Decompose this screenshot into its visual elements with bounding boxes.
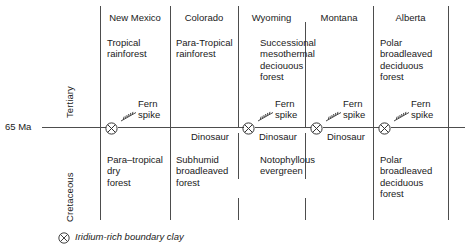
- fern-frond-icon: [325, 108, 342, 119]
- column-rule-wyoming-montana-bottom: [305, 198, 306, 220]
- flora-tertiary-wyoming: Successional mesothermal deciouous fores…: [260, 37, 316, 83]
- flora-line: forest: [176, 177, 228, 188]
- column-header-new-mexico: New Mexico: [100, 12, 170, 23]
- iridium-marker-icon: [105, 121, 118, 134]
- column-rule-right-edge: [448, 6, 449, 220]
- column-rule-colorado-wyoming-mid: [238, 133, 239, 179]
- flora-line: forest: [107, 177, 163, 188]
- fern-spike-line2: spike: [411, 109, 433, 120]
- column-rule-newmexico-colorado: [170, 6, 171, 220]
- flora-line: deciduous: [380, 60, 432, 71]
- legend-label: Iridium-rich boundary clay: [75, 231, 184, 242]
- kt-boundary-line-alberta: [391, 127, 465, 128]
- flora-cretaceous-new-mexico: Para–tropical dry forest: [107, 154, 163, 188]
- flora-line: Para–tropical: [107, 154, 163, 165]
- iridium-marker-icon: [310, 121, 323, 134]
- dinosaur-label-montana: Dinosaur: [327, 131, 365, 142]
- kt-boundary-line-montana-alberta: [323, 127, 379, 128]
- flora-line: broadleaved: [380, 48, 432, 59]
- flora-line: Notophyllous: [260, 154, 315, 165]
- fern-spike-label-wyoming: Fern spike: [275, 98, 297, 121]
- column-rule-montana-alberta: [373, 6, 374, 220]
- flora-line: Polar: [380, 37, 432, 48]
- flora-line: Successional: [260, 37, 316, 48]
- flora-line: broadleaved: [176, 165, 228, 176]
- fern-frond-icon: [393, 108, 410, 119]
- flora-line: Para-Tropical: [176, 37, 233, 48]
- flora-line: rainforest: [107, 48, 147, 59]
- flora-tertiary-alberta: Polar broadleaved deciduous forest: [380, 37, 432, 83]
- flora-cretaceous-wyoming: Notophyllous evergreen: [260, 154, 315, 177]
- flora-line: forest: [380, 188, 432, 199]
- fern-frond-icon: [120, 108, 137, 119]
- column-header-alberta: Alberta: [373, 12, 448, 23]
- flora-line: broadleaved: [380, 165, 432, 176]
- flora-line: evergreen: [260, 165, 315, 176]
- iridium-marker-icon: [242, 121, 255, 134]
- column-header-montana: Montana: [305, 12, 373, 23]
- kt-boundary-line-left: [42, 127, 106, 128]
- iridium-marker-icon: [378, 121, 391, 134]
- column-header-wyoming: Wyoming: [238, 12, 305, 23]
- flora-line: Subhumid: [176, 154, 228, 165]
- flora-tertiary-new-mexico: Tropical rainforest: [107, 37, 147, 60]
- flora-line: mesothermal: [260, 48, 316, 59]
- fern-spike-line2: spike: [275, 109, 297, 120]
- boundary-age-label: 65 Ma: [5, 121, 31, 132]
- column-header-colorado: Colorado: [170, 12, 238, 23]
- flora-tertiary-colorado: Para-Tropical rainforest: [176, 37, 233, 60]
- era-label-tertiary: Tertiary: [64, 86, 75, 118]
- column-rule-colorado-wyoming-bottom: [238, 198, 239, 220]
- fern-spike-label-montana: Fern spike: [343, 98, 365, 121]
- flora-line: forest: [380, 71, 432, 82]
- flora-cretaceous-alberta: Polar broadleaved deciduous forest: [380, 154, 432, 200]
- flora-line: deciduous: [380, 177, 432, 188]
- fern-spike-line1: Fern: [275, 98, 297, 109]
- fern-spike-line2: spike: [343, 109, 365, 120]
- era-label-cretaceous: Cretaceous: [64, 172, 75, 222]
- fern-frond-icon: [257, 108, 274, 119]
- flora-line: rainforest: [176, 48, 233, 59]
- fern-spike-line1: Fern: [343, 98, 365, 109]
- flora-line: dry: [107, 165, 163, 176]
- dinosaur-label-colorado: Dinosaur: [191, 131, 229, 142]
- flora-cretaceous-colorado: Subhumid broadleaved forest: [176, 154, 228, 188]
- iridium-marker-icon: [58, 230, 70, 242]
- legend: Iridium-rich boundary clay: [58, 230, 184, 242]
- flora-line: Polar: [380, 154, 432, 165]
- fern-spike-label-alberta: Fern spike: [411, 98, 433, 121]
- flora-line: deciouous: [260, 60, 316, 71]
- column-rule-colorado-wyoming-top: [238, 6, 239, 128]
- stratigraphic-diagram: 65 Ma Tertiary Cretaceous New Mexico Col…: [0, 0, 465, 251]
- flora-line: Tropical: [107, 37, 147, 48]
- fern-spike-line1: Fern: [138, 98, 160, 109]
- fern-spike-line1: Fern: [411, 98, 433, 109]
- kt-boundary-line-newmexico-wyoming: [118, 127, 244, 128]
- fern-spike-label-new-mexico: Fern spike: [138, 98, 160, 121]
- fern-spike-line2: spike: [138, 109, 160, 120]
- flora-line: forest: [260, 71, 316, 82]
- kt-boundary-line-wyoming-montana: [255, 127, 311, 128]
- dinosaur-label-wyoming: Dinosaur: [259, 131, 297, 142]
- column-rule-left-newmexico: [100, 6, 101, 220]
